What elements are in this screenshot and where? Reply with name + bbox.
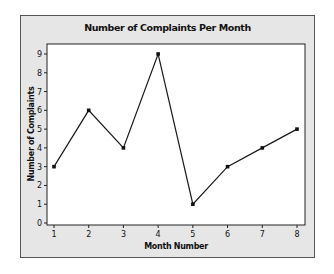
y-tick-label: 5 (37, 125, 42, 134)
y-tick-label: 6 (37, 106, 42, 115)
data-point (260, 146, 264, 150)
y-tick-label: 4 (37, 144, 42, 153)
x-tick-label: 7 (260, 230, 265, 239)
data-point (122, 146, 126, 150)
plot-area (47, 44, 305, 225)
data-point (226, 165, 230, 169)
y-tick-label: 3 (37, 163, 42, 172)
data-point (52, 165, 56, 169)
y-tick-label: 0 (37, 219, 42, 228)
data-point (87, 109, 91, 113)
x-tick-label: 2 (86, 230, 91, 239)
x-tick-label: 8 (294, 230, 299, 239)
line-chart: 0123456789 12345678 Month Number Number … (0, 0, 334, 274)
y-tick-label: 9 (37, 50, 42, 59)
y-tick-label: 7 (37, 88, 42, 97)
x-tick-label: 5 (190, 230, 195, 239)
y-axis: 0123456789 (37, 50, 47, 228)
x-tick-label: 3 (121, 230, 126, 239)
y-tick-label: 2 (37, 181, 42, 190)
data-point (156, 52, 160, 56)
x-tick-label: 4 (156, 230, 161, 239)
y-tick-label: 1 (37, 200, 42, 209)
x-axis: 12345678 (51, 225, 299, 239)
x-tick-label: 1 (51, 230, 56, 239)
y-tick-label: 8 (37, 69, 42, 78)
x-axis-label: Month Number (144, 242, 208, 251)
y-axis-label: Number of Complaints (27, 86, 36, 182)
data-point (295, 127, 299, 131)
data-point (191, 202, 195, 206)
x-tick-label: 6 (225, 230, 230, 239)
